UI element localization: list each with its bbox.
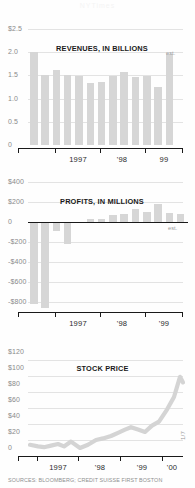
profits-xtick-label: 1997 xyxy=(58,319,98,328)
bar-revenues xyxy=(41,75,49,145)
stock-panel: STOCK PRICE $120 $100 $80 $60 $40 $20 0 … xyxy=(0,340,195,488)
profits-ytick-label: -$200 xyxy=(8,238,26,245)
revenues-ytick-label: 2.0 xyxy=(8,48,18,55)
revenues-est-label: est. xyxy=(166,50,175,56)
revenues-ytick-label: $2.5 xyxy=(8,25,22,32)
profits-x-tick xyxy=(100,312,101,317)
bar-revenues xyxy=(120,72,128,145)
stock-ytick-label: $100 xyxy=(8,364,24,371)
bar-revenues xyxy=(64,75,72,145)
profits-ytick-label: -$400 xyxy=(8,258,26,265)
revenues-ytick-label: 1.0 xyxy=(8,95,18,102)
revenues-x-tick xyxy=(55,148,56,153)
revenues-x-tick xyxy=(182,148,183,153)
bar-revenues xyxy=(154,87,162,146)
stock-x-tick xyxy=(120,456,121,461)
stock-ytick-label: $20 xyxy=(8,428,20,435)
bar-profits xyxy=(143,212,151,222)
profits-ytick-label: 0 xyxy=(8,218,12,225)
bar-revenues xyxy=(98,82,106,145)
profits-ytick-label: -$600 xyxy=(8,278,26,285)
bar-revenues xyxy=(132,77,140,145)
profits-est-label: est. xyxy=(168,225,177,231)
stock-ytick-label: $40 xyxy=(8,412,20,419)
profits-xtick-label: '99 xyxy=(146,319,182,328)
bar-profits xyxy=(109,215,117,223)
bar-revenues-est xyxy=(166,54,174,145)
stock-x-tick xyxy=(162,456,163,461)
bar-profits-est xyxy=(177,214,185,222)
stock-xtick-label: 1997 xyxy=(38,463,78,472)
revenues-ytick-label: 0.5 xyxy=(8,118,18,125)
revenues-xtick-label: '98 xyxy=(102,155,142,164)
profits-ytick-label: $400 xyxy=(8,178,24,185)
bar-profits xyxy=(154,204,162,223)
sources-note: SOURCES: BLOOMBERG; CREDIT SUISSE FIRST … xyxy=(8,477,162,483)
stock-x-tick xyxy=(18,456,19,461)
profits-ytick-label: $200 xyxy=(8,198,24,205)
revenues-x-tick xyxy=(145,148,146,153)
financial-chart-figure: NYTimes xyxy=(0,0,195,488)
bar-revenues xyxy=(53,70,61,145)
revenues-xtick-label: 1997 xyxy=(58,155,98,164)
bar-revenues xyxy=(109,76,117,145)
profits-gridline-zero xyxy=(28,222,188,223)
bar-revenues xyxy=(143,76,151,145)
profits-ytick-label: -$800 xyxy=(8,298,26,305)
bar-revenues xyxy=(75,76,83,145)
bar-profits xyxy=(120,214,128,223)
stock-ytick-label: $60 xyxy=(8,396,20,403)
stock-ytick-label: 0 xyxy=(8,444,12,451)
bar-profits xyxy=(166,213,174,223)
stock-date-annotation: 1/7 xyxy=(180,431,186,440)
bar-profits xyxy=(132,209,140,222)
revenues-ytick-label: 1.5 xyxy=(8,71,18,78)
bar-profits xyxy=(41,222,49,308)
bar-profits xyxy=(30,222,38,304)
stock-xtick-label: '00 xyxy=(156,463,188,472)
profits-panel: PROFITS, IN MILLIONS est. $400 $200 0 -$… xyxy=(0,176,195,322)
bar-revenues xyxy=(30,52,38,145)
stock-xtick-label: '98 xyxy=(80,463,120,472)
profits-x-tick xyxy=(55,312,56,317)
stock-title: STOCK PRICE xyxy=(55,364,150,373)
bar-profits xyxy=(64,222,72,244)
profits-x-tick xyxy=(145,312,146,317)
profits-xtick-label: '98 xyxy=(102,319,142,328)
stock-ytick-label: $120 xyxy=(8,348,24,355)
stock-x-tick xyxy=(78,456,79,461)
stock-x-tick xyxy=(37,456,38,461)
stock-x-axis xyxy=(18,456,183,457)
revenues-ytick-label: 0 xyxy=(8,141,12,148)
profits-x-tick xyxy=(182,312,183,317)
revenues-xtick-label: 99 xyxy=(146,155,182,164)
revenues-x-tick xyxy=(100,148,101,153)
bar-revenues xyxy=(87,83,95,145)
stock-ytick-label: $80 xyxy=(8,380,20,387)
profits-x-tick xyxy=(18,312,19,317)
profits-title: PROFITS, IN MILLIONS xyxy=(42,197,162,206)
revenues-panel: REVENUES, IN BILLIONS est. $2.5 2.0 1.5 … xyxy=(0,0,195,170)
revenues-x-tick xyxy=(18,148,19,153)
revenues-title: REVENUES, IN BILLIONS xyxy=(42,44,162,53)
